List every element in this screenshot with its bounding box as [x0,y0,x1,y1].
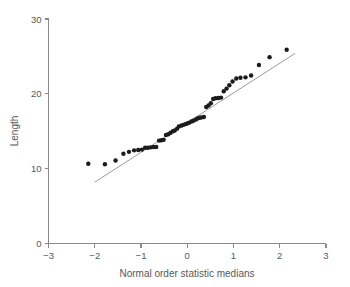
x-tick-label: 3 [323,250,328,261]
data-point [113,158,117,162]
plot-canvas: 0102030 −3−2−10123 Normal order statisti… [0,0,350,287]
data-point [238,76,242,80]
data-point [103,162,107,166]
y-axis-ticks [45,19,49,244]
x-tick-label: 1 [231,250,236,261]
scatter-data-points [86,47,289,166]
y-axis-tick-labels: 0102030 [31,14,42,250]
y-tick-label: 20 [31,88,42,99]
data-point [127,150,131,154]
y-axis-title: Length [9,116,20,147]
data-point [224,86,228,90]
data-point [284,47,288,51]
x-axis-title: Normal order statistic medians [119,268,254,279]
data-point [209,101,213,105]
data-point [227,83,231,87]
data-point [202,115,206,119]
data-point [154,145,158,149]
x-axis-ticks [49,244,327,248]
data-point [132,148,136,152]
data-point [267,55,271,59]
x-tick-label: −3 [43,250,54,261]
data-point [249,73,253,77]
normal-probability-plot-figure: 0102030 −3−2−10123 Normal order statisti… [0,0,350,287]
data-point [121,152,125,156]
data-point [230,79,234,83]
data-point [86,162,90,166]
data-point [257,63,261,67]
y-tick-label: 10 [31,163,42,174]
x-tick-label: 0 [185,250,190,261]
data-point [243,75,247,79]
x-tick-label: 2 [277,250,282,261]
data-point [234,76,238,80]
data-point [161,138,165,142]
x-tick-label: −2 [89,250,100,261]
x-axis-tick-labels: −3−2−10123 [43,250,329,261]
data-point [219,95,223,99]
y-tick-label: 0 [36,238,41,249]
x-tick-label: −1 [136,250,147,261]
y-tick-label: 30 [31,14,42,25]
